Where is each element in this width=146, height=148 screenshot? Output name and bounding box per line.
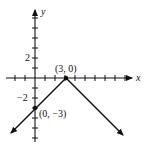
y-axis: y 2 −2	[17, 6, 46, 142]
x-axis-label: x	[135, 72, 141, 83]
graph-figure: x y 2 −2 (3, 0) (0, −3)	[0, 0, 146, 148]
y-axis-label: y	[40, 6, 46, 17]
graph-line	[11, 78, 123, 135]
y-tick-label-neg2: −2	[17, 92, 28, 103]
y-intercept-label: (0, −3)	[39, 108, 66, 120]
vertex-point	[64, 76, 68, 80]
y-tick-label-2: 2	[25, 52, 30, 63]
y-intercept-point	[33, 106, 37, 110]
vertex-label: (3, 0)	[55, 63, 77, 75]
